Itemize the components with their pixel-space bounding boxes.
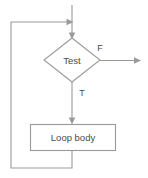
edge-true-branch [69,82,75,125]
flowchart-diagram: Test Loop body F T [0,0,148,178]
true-branch-label: T [79,88,85,98]
flowchart-canvas: Test Loop body F T [0,0,148,178]
edge-true-branch-arrowhead [69,118,75,125]
node-test-decision[interactable]: Test [44,38,100,82]
false-branch-label: F [97,43,103,53]
edge-feedback [11,19,74,168]
edge-false-branch [100,57,141,63]
edge-feedback-line [11,22,72,168]
decision-diamond-label: Test [63,55,81,66]
loop-body-label: Loop body [51,132,96,143]
edge-false-branch-arrowhead [134,57,141,63]
node-loop-body[interactable]: Loop body [31,125,116,151]
